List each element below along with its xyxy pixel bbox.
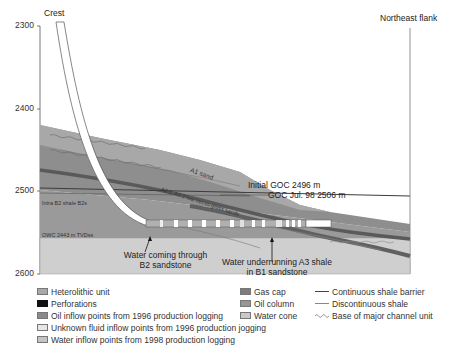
unknown-inflow-swatch: [37, 324, 48, 331]
depth-tick-2400: 2400: [2, 103, 34, 113]
owc-label: OWC 2443 m TVDss: [42, 232, 93, 238]
depth-tick-2500: 2500: [2, 185, 34, 195]
water-a3-label: Water underrunning A3 shale in B1 sandst…: [217, 257, 337, 277]
legend-item-perforations: Perforations: [37, 298, 97, 309]
water-cone-swatch: [240, 312, 251, 319]
legend-item-gas-cap: Gas cap: [240, 286, 286, 297]
perforations-swatch: [37, 300, 48, 307]
legend-item-continuous-shale: Continuous shale barrier: [315, 286, 425, 297]
water-b2-label: Water coming through B2 sandstone: [118, 250, 213, 270]
initial-goc-label: Initial GOC 2496 m: [248, 180, 320, 190]
gas-cap-swatch: [240, 288, 251, 295]
legend-item-heterolithic: Heterolithic unit: [37, 286, 110, 297]
legend-item-oil-inflow: Oil inflow points from 1996 production l…: [37, 310, 223, 321]
legend-item-water-cone: Water cone: [240, 310, 297, 321]
northeast-flank-label: Northeast flank: [380, 13, 437, 23]
intra-b2-shale-label: Intra B2 shale B2s: [42, 200, 87, 206]
goc-jul98-label: GOC Jul. 98 2506 m: [268, 190, 345, 200]
water-inflow-swatch: [37, 336, 48, 343]
legend-item-channel-base: Base of major channel unit: [315, 310, 433, 321]
depth-tick-2600: 2600: [2, 268, 34, 278]
crest-label: Crest: [44, 8, 64, 18]
heterolithic-swatch: [37, 288, 48, 295]
legend-item-discontinuous-shale: Discontinuous shale: [315, 298, 408, 309]
wavy-line-icon: [315, 313, 329, 319]
depth-tick-2300: 2300: [2, 20, 34, 30]
oil-column-swatch: [240, 300, 251, 307]
perforated-section: [146, 220, 331, 227]
legend-item-unknown-inflow: Unknown fluid inflow points from 1996 pr…: [37, 322, 266, 333]
discontinuous-shale-line-icon: [315, 303, 329, 304]
oil-inflow-swatch: [37, 312, 48, 319]
continuous-shale-line-icon: [315, 291, 329, 292]
legend-item-oil-column: Oil column: [240, 298, 294, 309]
legend-item-water-inflow: Water inflow points from 1998 production…: [37, 334, 235, 345]
